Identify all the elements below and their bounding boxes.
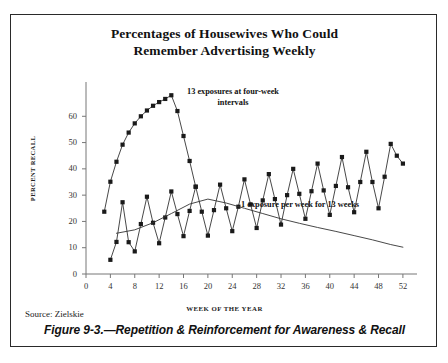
data-point-marker [267, 172, 271, 176]
data-point-marker [175, 109, 179, 113]
series-line-0 [104, 95, 195, 211]
x-tick-label: 20 [198, 281, 218, 291]
data-point-marker [401, 162, 405, 166]
data-point-marker [224, 206, 228, 210]
data-point-marker [340, 155, 344, 159]
data-point-marker [255, 226, 259, 230]
data-point-marker [120, 143, 124, 147]
data-point-marker [102, 210, 106, 214]
data-point-marker [151, 104, 155, 108]
data-point-marker [328, 213, 332, 217]
data-point-marker [145, 108, 149, 112]
data-point-marker [163, 97, 167, 101]
x-tick-label: 36 [295, 281, 315, 291]
y-axis-title: PERCENT RECALL [29, 124, 36, 214]
data-point-marker [139, 114, 143, 118]
data-point-marker [114, 160, 118, 164]
data-point-marker [315, 162, 319, 166]
x-tick-label: 28 [247, 281, 267, 291]
plot-area: PERCENT RECALL WEEK OF THE YEAR 01020304… [11, 15, 438, 348]
x-tick-label: 44 [344, 281, 364, 291]
data-point-marker [395, 154, 399, 158]
data-point-marker [218, 183, 222, 187]
y-tick-label: 30 [55, 190, 77, 200]
data-point-marker [200, 210, 204, 214]
data-point-marker [309, 189, 313, 193]
data-point-marker [389, 142, 393, 146]
x-tick-label: 52 [393, 281, 413, 291]
data-point-marker [175, 212, 179, 216]
data-point-marker [108, 258, 112, 262]
x-tick-label: 24 [222, 281, 242, 291]
data-point-marker [181, 134, 185, 138]
data-point-marker [194, 185, 198, 189]
data-point-marker [352, 210, 356, 214]
data-point-marker [279, 222, 283, 226]
data-point-marker [364, 150, 368, 154]
data-point-marker [346, 185, 350, 189]
data-point-marker [127, 240, 131, 244]
data-point-marker [114, 240, 118, 244]
x-tick-label: 4 [100, 281, 120, 291]
y-tick-label: 60 [55, 111, 77, 121]
data-point-marker [303, 217, 307, 221]
y-tick-label: 20 [55, 216, 77, 226]
data-point-marker [127, 130, 131, 134]
source-note: Source: Zielskie [25, 309, 84, 319]
data-point-marker [376, 206, 380, 210]
data-point-marker [322, 188, 326, 192]
x-tick-label: 48 [369, 281, 389, 291]
x-tick-label: 0 [76, 281, 96, 291]
data-point-marker [358, 180, 362, 184]
data-point-marker [169, 93, 173, 97]
figure-container: Percentages of Housewives Who Could Reme… [10, 14, 437, 347]
data-point-marker [206, 234, 210, 238]
data-point-marker [285, 193, 289, 197]
data-point-marker [181, 234, 185, 238]
data-point-marker [188, 159, 192, 163]
annotation-1-exposure-weekly: 1 exposure per week for 13 weeks [239, 200, 361, 211]
data-point-marker [370, 180, 374, 184]
x-tick-label: 12 [149, 281, 169, 291]
x-tick-label: 16 [174, 281, 194, 291]
data-point-marker [297, 192, 301, 196]
y-tick-label: 50 [55, 137, 77, 147]
data-point-marker [133, 121, 137, 125]
annotation-13-exposures: 13 exposures at four-week intervals [179, 87, 287, 108]
x-tick-label: 8 [125, 281, 145, 291]
data-point-marker [291, 167, 295, 171]
data-point-marker [212, 208, 216, 212]
data-point-marker [139, 222, 143, 226]
data-point-marker [334, 184, 338, 188]
data-point-marker [157, 241, 161, 245]
y-tick-label: 10 [55, 242, 77, 252]
data-point-marker [145, 195, 149, 199]
data-point-marker [230, 229, 234, 233]
x-tick-label: 40 [320, 281, 340, 291]
chart-svg [11, 15, 438, 348]
data-point-marker [133, 249, 137, 253]
data-point-marker [108, 180, 112, 184]
figure-caption: Figure 9-3.—Repetition & Reinforcement f… [11, 323, 438, 337]
data-point-marker [242, 177, 246, 181]
data-point-marker [383, 175, 387, 179]
data-point-marker [157, 100, 161, 104]
data-point-marker [169, 189, 173, 193]
data-point-marker [120, 200, 124, 204]
x-tick-label: 32 [271, 281, 291, 291]
data-point-marker [188, 209, 192, 213]
y-tick-label: 40 [55, 163, 77, 173]
y-tick-label: 0 [55, 269, 77, 279]
